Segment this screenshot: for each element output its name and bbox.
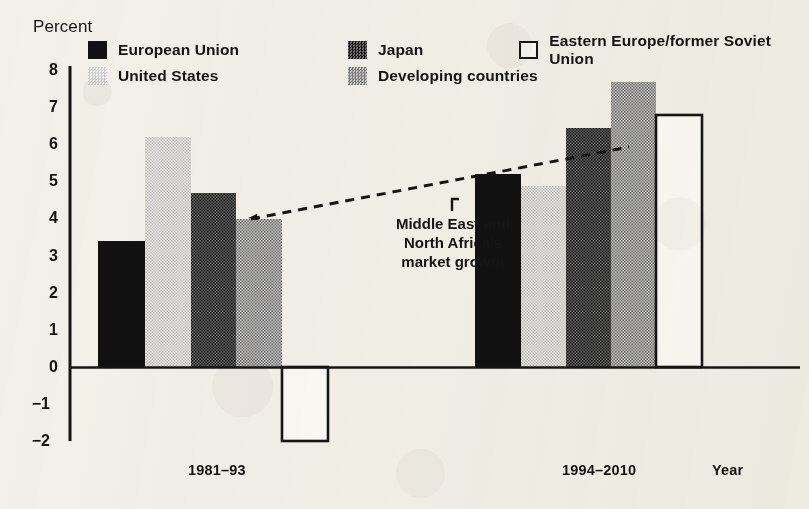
y-tick-2: 2 [28,284,58,302]
legend-label-japan: Japan [378,41,423,59]
y-tick-0: 0 [28,358,58,376]
legend-swatch-european-union [88,41,107,59]
legend-item-developing-countries[interactable]: Developing countries [348,66,809,85]
x-tick-1981-93: 1981–93 [188,462,246,478]
y-tick-3: 3 [28,247,58,265]
legend-item-united-states[interactable]: United States [88,66,348,85]
legend-swatch-eastern-europe [519,41,538,59]
bar-eastern-europe-1994-2010 [656,115,702,367]
legend-label-european-union: European Union [118,41,239,59]
x-tick-1994-2010: 1994–2010 [562,462,636,478]
y-tick-6: 6 [28,135,58,153]
annotation-label: Middle East and North Africa's market gr… [378,214,528,271]
y-tick-neg1: −1 [20,395,50,413]
legend-label-united-states: United States [118,67,218,85]
bar-european-union-1981-93 [98,241,145,367]
x-axis-title: Year [712,462,743,478]
y-tick-8: 8 [28,61,58,79]
legend-item-japan[interactable]: Japan Eastern Europe/former Soviet Union [348,40,809,59]
bar-eastern-europe-1981-93 [282,367,328,441]
legend-label-eastern-europe: Eastern Europe/former Soviet Union [549,32,809,68]
bar-developing-1994-2010 [611,82,656,367]
bar-japan-1981-93 [191,193,236,367]
annotation-line-2: North Africa's [378,233,528,252]
y-tick-neg2: −2 [20,432,50,450]
y-tick-1: 1 [28,321,58,339]
bar-developing-1981-93 [236,219,282,367]
chart-legend: European Union Japan Eastern Europe/form… [88,40,809,85]
bar-united-states-1981-93 [145,137,191,367]
legend-label-developing-countries: Developing countries [378,67,538,85]
legend-swatch-developing-countries [348,67,367,85]
y-axis-title: Percent [33,17,92,37]
annotation-line-3: market growth [378,252,528,271]
y-tick-5: 5 [28,172,58,190]
annotation-line-1: Middle East and [378,214,528,233]
annotation-bracket-icon [452,199,459,211]
legend-item-european-union[interactable]: European Union [88,40,348,59]
y-tick-4: 4 [28,209,58,227]
legend-swatch-japan [348,41,367,59]
y-tick-7: 7 [28,98,58,116]
legend-swatch-united-states [88,67,107,85]
bar-japan-1994-2010 [566,128,611,367]
bar-group-1981-93 [98,137,328,441]
